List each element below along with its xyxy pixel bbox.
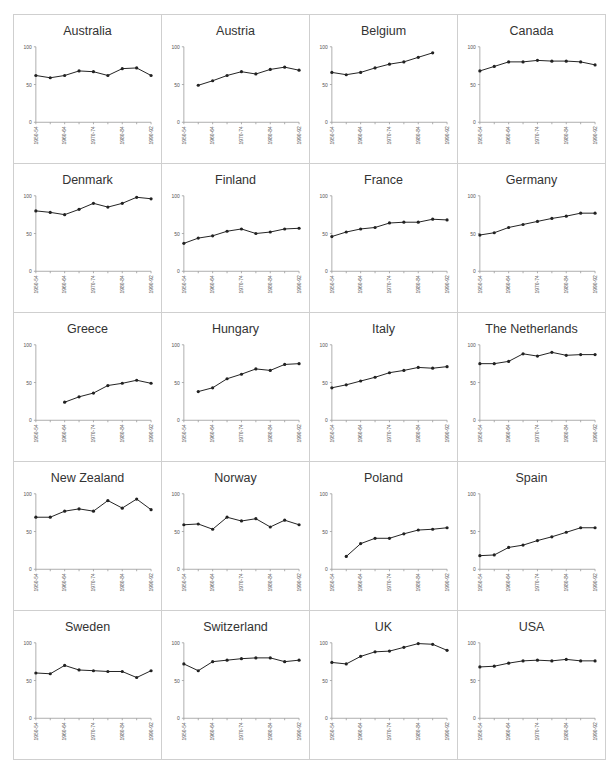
x-tick-label: 1970-74 (387, 722, 392, 740)
chart-panel: Germany0501001950-541960-641970-741980-8… (458, 164, 606, 313)
y-tick-label: 0 (473, 120, 476, 125)
data-point-marker (493, 362, 496, 365)
data-point-marker (77, 208, 80, 211)
x-tick-label: 1950-54 (182, 126, 187, 144)
x-tick-label: 1960-64 (506, 126, 511, 144)
data-point-marker (565, 658, 568, 661)
y-tick-label: 50 (322, 679, 328, 684)
data-point-marker (283, 660, 286, 663)
y-tick-label: 50 (470, 530, 476, 535)
x-tick-label: 1990-92 (593, 126, 598, 144)
data-point-marker (593, 659, 596, 662)
x-tick-label: 1960-64 (506, 573, 511, 591)
data-point-marker (507, 60, 510, 63)
x-tick-label: 1970-74 (535, 573, 540, 591)
data-point-marker (478, 69, 481, 72)
data-point-marker (269, 369, 272, 372)
x-tick-label: 1950-54 (182, 424, 187, 442)
data-point-marker (359, 542, 362, 545)
data-point-marker (92, 392, 95, 395)
data-point-marker (182, 662, 185, 665)
data-point-marker (536, 59, 539, 62)
data-point-marker (77, 395, 80, 398)
data-point-marker (211, 660, 214, 663)
data-point-marker (402, 532, 405, 535)
data-point-marker (478, 362, 481, 365)
data-point-marker (345, 662, 348, 665)
data-point-marker (182, 242, 185, 245)
y-tick-label: 0 (29, 120, 32, 125)
data-point-marker (431, 51, 434, 54)
line-plot: 0501001950-541960-641970-741980-841990-9… (458, 15, 605, 163)
data-point-marker (593, 63, 596, 66)
data-point-marker (297, 69, 300, 72)
data-point-marker (373, 376, 376, 379)
x-tick-label: 1970-74 (535, 424, 540, 442)
y-tick-label: 100 (172, 641, 181, 646)
x-tick-label: 1990-92 (149, 275, 154, 293)
data-point-marker (593, 526, 596, 529)
line-plot: 0501001950-541960-641970-741980-841990-9… (310, 164, 457, 312)
x-tick-label: 1980-84 (120, 424, 125, 442)
x-tick-label: 1980-84 (564, 722, 569, 740)
x-tick-label: 1950-54 (478, 424, 483, 442)
data-point-marker (135, 676, 138, 679)
y-tick-label: 50 (470, 232, 476, 237)
y-tick-label: 50 (26, 679, 32, 684)
x-tick-label: 1950-54 (34, 722, 39, 740)
data-point-marker (92, 510, 95, 513)
x-tick-label: 1970-74 (91, 126, 96, 144)
x-tick-label: 1990-92 (445, 722, 450, 740)
data-point-marker (359, 71, 362, 74)
x-tick-label: 1950-54 (34, 424, 39, 442)
line-plot: 0501001950-541960-641970-741980-841990-9… (162, 462, 309, 610)
data-point-marker (269, 656, 272, 659)
data-point-marker (297, 227, 300, 230)
data-point-marker (135, 66, 138, 69)
data-point-marker (34, 209, 37, 212)
data-point-marker (493, 553, 496, 556)
data-point-marker (521, 352, 524, 355)
x-tick-label: 1990-92 (297, 126, 302, 144)
data-point-marker (34, 671, 37, 674)
x-tick-label: 1990-92 (297, 722, 302, 740)
x-tick-label: 1960-64 (210, 424, 215, 442)
data-point-marker (593, 212, 596, 215)
y-tick-label: 50 (470, 381, 476, 386)
data-point-marker (269, 525, 272, 528)
data-point-marker (521, 544, 524, 547)
chart-panel: The Netherlands0501001950-541960-641970-… (458, 313, 606, 462)
data-point-marker (493, 231, 496, 234)
data-point-marker (345, 383, 348, 386)
y-tick-label: 0 (473, 418, 476, 423)
data-point-marker (197, 390, 200, 393)
y-tick-label: 100 (320, 492, 329, 497)
x-tick-label: 1970-74 (91, 573, 96, 591)
y-tick-label: 50 (174, 679, 180, 684)
chart-panel: Belgium0501001950-541960-641970-741980-8… (310, 15, 458, 164)
y-tick-label: 50 (322, 232, 328, 237)
x-tick-label: 1960-64 (358, 424, 363, 442)
x-tick-label: 1950-54 (478, 722, 483, 740)
data-point-marker (121, 507, 124, 510)
data-point-marker (149, 508, 152, 511)
x-tick-label: 1990-92 (445, 126, 450, 144)
x-tick-label: 1990-92 (445, 573, 450, 591)
data-point-marker (121, 67, 124, 70)
line-plot: 0501001950-541960-641970-741980-841990-9… (310, 313, 457, 461)
data-point-marker (417, 642, 420, 645)
data-point-marker (149, 669, 152, 672)
y-tick-label: 100 (172, 492, 181, 497)
y-tick-label: 100 (24, 194, 33, 199)
data-point-marker (507, 546, 510, 549)
data-point-marker (92, 669, 95, 672)
data-point-marker (135, 497, 138, 500)
y-tick-label: 50 (470, 83, 476, 88)
x-tick-label: 1980-84 (120, 573, 125, 591)
data-point-marker (225, 377, 228, 380)
x-tick-label: 1970-74 (535, 275, 540, 293)
x-tick-label: 1960-64 (210, 722, 215, 740)
x-tick-label: 1990-92 (593, 573, 598, 591)
data-point-marker (417, 366, 420, 369)
x-tick-label: 1970-74 (535, 722, 540, 740)
